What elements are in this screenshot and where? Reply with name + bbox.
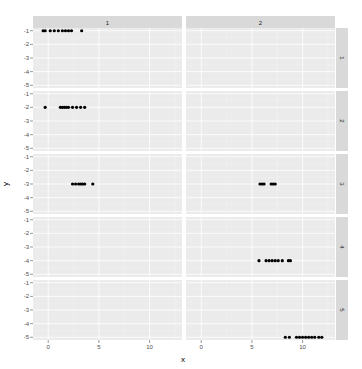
data-point bbox=[257, 259, 260, 262]
data-point bbox=[44, 29, 47, 32]
data-point bbox=[262, 182, 265, 185]
data-point bbox=[64, 29, 67, 32]
x-tick-label: 5 bbox=[97, 344, 101, 350]
panel-1-3 bbox=[33, 154, 182, 214]
y-tick-label: -2 bbox=[24, 104, 30, 110]
y-tick-label: -1 bbox=[24, 280, 30, 286]
data-point bbox=[301, 336, 304, 339]
data-point bbox=[274, 182, 277, 185]
y-tick-label: -1 bbox=[24, 28, 30, 34]
y-tick-label: -3 bbox=[24, 307, 30, 313]
data-point bbox=[75, 106, 78, 109]
panel-1-5 bbox=[33, 280, 182, 340]
x-tick-label: 10 bbox=[299, 344, 306, 350]
y-tick-label: -2 bbox=[24, 230, 30, 236]
panel-2-2 bbox=[186, 91, 335, 151]
data-point bbox=[277, 259, 280, 262]
y-tick-label: -1 bbox=[24, 217, 30, 223]
data-point bbox=[61, 29, 64, 32]
data-point bbox=[71, 106, 74, 109]
data-point bbox=[67, 29, 70, 32]
y-tick-label: -3 bbox=[24, 55, 30, 61]
data-point bbox=[288, 336, 291, 339]
y-tick-label: -5 bbox=[24, 145, 30, 151]
y-tick-label: -2 bbox=[24, 41, 30, 47]
data-point bbox=[83, 182, 86, 185]
panel-2-4 bbox=[186, 217, 335, 277]
data-point bbox=[295, 336, 298, 339]
x-axis-title: x bbox=[181, 355, 185, 364]
row-strips: 12345 bbox=[336, 28, 348, 340]
data-point bbox=[313, 336, 316, 339]
data-point bbox=[57, 29, 60, 32]
data-point bbox=[274, 259, 277, 262]
y-tick-label: -1 bbox=[24, 154, 30, 160]
y-tick-label: -2 bbox=[24, 293, 30, 299]
data-point bbox=[44, 106, 47, 109]
y-tick-label: -3 bbox=[24, 181, 30, 187]
y-tick-label: -4 bbox=[24, 69, 30, 75]
panel-2-3 bbox=[186, 154, 335, 214]
x-tick-label: 0 bbox=[47, 344, 51, 350]
y-tick-label: -5 bbox=[24, 271, 30, 277]
y-tick-label: -5 bbox=[24, 208, 30, 214]
x-tick-label: 0 bbox=[200, 344, 204, 350]
data-point bbox=[289, 259, 292, 262]
x-tick-label: 10 bbox=[146, 344, 153, 350]
data-point bbox=[67, 106, 70, 109]
data-point bbox=[53, 29, 56, 32]
y-tick-label: -5 bbox=[24, 334, 30, 340]
data-point bbox=[304, 336, 307, 339]
panel-1-2 bbox=[33, 91, 182, 151]
y-tick-label: -2 bbox=[24, 167, 30, 173]
data-point bbox=[71, 182, 74, 185]
data-point bbox=[70, 29, 73, 32]
x-tick-label: 5 bbox=[250, 344, 254, 350]
data-point bbox=[80, 29, 83, 32]
x-axis: 05100510 bbox=[47, 340, 307, 350]
y-tick-label: -3 bbox=[24, 118, 30, 124]
faceted-scatter-chart: 12 12345 -1-2-3-4-5-1-2-3-4-5-1-2-3-4-5-… bbox=[0, 0, 362, 369]
data-point bbox=[320, 336, 323, 339]
y-axis-title: y bbox=[1, 182, 10, 186]
panel-1-1 bbox=[33, 28, 182, 88]
data-point bbox=[298, 336, 301, 339]
y-tick-label: -4 bbox=[24, 132, 30, 138]
data-point bbox=[281, 259, 284, 262]
data-point bbox=[317, 336, 320, 339]
panel-2-1 bbox=[186, 28, 335, 88]
data-point bbox=[91, 182, 94, 185]
data-point bbox=[79, 106, 82, 109]
plot-panels bbox=[33, 28, 335, 340]
y-tick-label: -4 bbox=[24, 321, 30, 327]
y-axis: -1-2-3-4-5-1-2-3-4-5-1-2-3-4-5-1-2-3-4-5… bbox=[24, 28, 33, 341]
data-point bbox=[310, 336, 313, 339]
data-point bbox=[49, 29, 52, 32]
y-tick-label: -4 bbox=[24, 258, 30, 264]
y-tick-label: -5 bbox=[24, 82, 30, 88]
panel-1-4 bbox=[33, 217, 182, 277]
data-point bbox=[284, 336, 287, 339]
data-point bbox=[307, 336, 310, 339]
y-tick-label: -1 bbox=[24, 91, 30, 97]
column-strips: 12 bbox=[33, 16, 335, 28]
data-point bbox=[268, 259, 271, 262]
data-point bbox=[74, 182, 77, 185]
y-tick-label: -3 bbox=[24, 244, 30, 250]
panel-2-5 bbox=[186, 280, 335, 340]
y-tick-label: -4 bbox=[24, 195, 30, 201]
data-point bbox=[264, 259, 267, 262]
data-point bbox=[83, 106, 86, 109]
data-point bbox=[271, 259, 274, 262]
